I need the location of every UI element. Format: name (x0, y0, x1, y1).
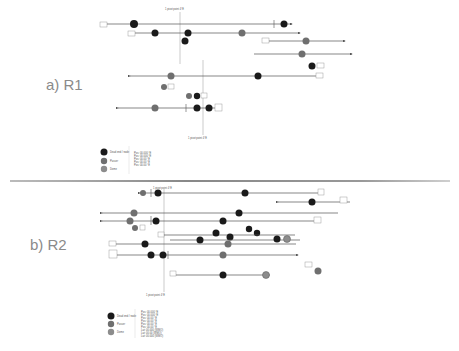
svg-text:Pos: 00.00 °E: Pos: 00.00 °E (134, 163, 150, 167)
r2-legend-item-dark: Dead end / node (117, 314, 137, 318)
r1-pivot-label-bottom: 1 pivot point 4°E (188, 136, 207, 140)
r2-legend: Dead end / node Passer Dome Pos: 00.000 … (108, 309, 164, 338)
r2-legend-item-light: Dome (117, 330, 124, 334)
diagram-canvas: 1 pivot point 4°E 1 pivot point 4°E (0, 0, 459, 351)
r2-legend-item-mid: Passer (117, 322, 125, 326)
r2-diagram: 1 pivot point 4°E 1 pivot point 4°E (102, 186, 350, 297)
r2-pivot-label: 1 pivot point 4°E (153, 186, 172, 190)
r1-legend: Dead end / node Passer Dome Pos: 00.000 … (101, 146, 152, 174)
svg-text:Lat: 00.000 (WMO): Lat: 00.000 (WMO) (141, 334, 163, 338)
r1-legend-item-light: Dome (110, 167, 117, 171)
r2-pivot-label-bottom: 1 pivot point 4°E (146, 293, 165, 297)
r1-pivot-label: 1 pivot point 4°E (165, 7, 184, 11)
r1-diagram: 1 pivot point 4°E 1 pivot point 4°E (100, 7, 352, 140)
r1-legend-item-dark: Dead end / node (110, 150, 130, 154)
r1-legend-item-mid: Passer (110, 159, 118, 163)
